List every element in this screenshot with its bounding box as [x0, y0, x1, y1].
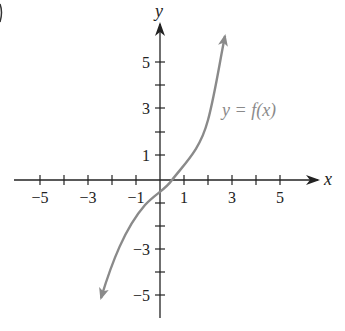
graph: −5 −3 −1 1 3 5 5 3 1 −3 −5 x y y = f(x) — [0, 0, 345, 331]
y-tick-label: 1 — [142, 147, 150, 164]
x-axis-label: x — [323, 169, 332, 189]
x-tick-label: 3 — [228, 189, 236, 206]
y-axis-label: y — [153, 1, 163, 21]
y-tick-label: 5 — [142, 54, 150, 71]
x-tick-label: 5 — [276, 189, 284, 206]
y-tick-label: −5 — [133, 287, 150, 304]
clipped-paren — [0, 4, 2, 22]
x-tick-label: −3 — [79, 189, 96, 206]
curve-label: y = f(x) — [220, 100, 276, 121]
x-tick-label: −1 — [127, 189, 144, 206]
x-tick-label: −5 — [31, 189, 48, 206]
y-tick-label: −3 — [133, 241, 150, 258]
y-tick-label: 3 — [142, 100, 150, 117]
function-curve — [101, 36, 225, 298]
x-tick-label: 1 — [180, 189, 188, 206]
